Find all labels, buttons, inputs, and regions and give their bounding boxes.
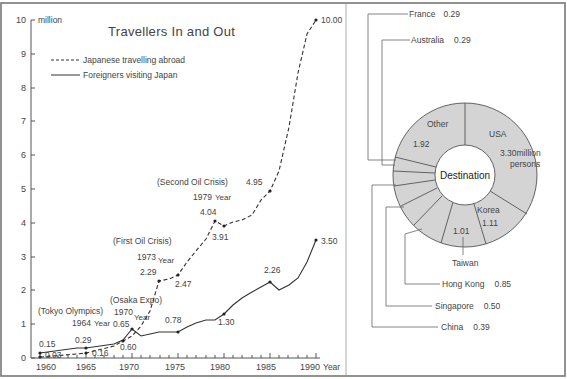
x-tick-label: 1970 [119,362,139,372]
label-name: Hong Kong [442,279,485,289]
year-number: 1970 [114,307,133,317]
value-label: 10.00 [321,15,343,25]
label-value: 0.29 [443,9,460,19]
x-tick-label: 1985 [256,362,276,372]
x-tick-label: 1990 [300,362,320,372]
value-label: 3.91 [212,232,229,242]
year-number: 1979 [193,192,212,202]
value-label: 4.04 [200,207,217,217]
slice-value-other: 1.92 [413,139,430,149]
slice-value-usa: 3.30million [500,148,541,158]
value-label: 4.95 [246,177,263,187]
pie-center-label: Destination [440,170,490,181]
label-value: 0.29 [454,35,471,45]
slice-value-korea: 1.11 [482,218,498,228]
year-word: Year [134,313,151,322]
value-label: 2.26 [264,265,281,275]
year-number: 1964 [72,318,91,328]
y-tick-label: 7 [21,116,26,126]
value-label: 0.29 [75,335,92,345]
y-tick-label: 8 [21,83,26,93]
year-number: 1973 [137,252,156,262]
x-axis-label: Year [323,362,340,372]
value-label: 3.50 [321,236,338,246]
label-hong-kong: Hong Kong0.85 [442,279,511,289]
value-label: 0.03 [45,350,62,360]
value-label: 0.16 [92,348,109,358]
y-tick-label: 6 [21,150,26,160]
y-unit-label: million [38,15,62,25]
slice-unit-usa: persons [510,159,540,169]
value-label: 0.78 [165,315,182,325]
year-word: Year [158,256,175,265]
y-tick-label: 2 [21,285,26,295]
y-tick-label: 5 [21,184,26,194]
value-label: 0.60 [120,342,137,352]
label-australia: Australia0.29 [411,35,471,45]
slice-label-usa: USA [489,129,507,139]
slice-label-other: Other [427,119,448,129]
event-label-first-oil: (First Oil Crisis) [113,236,172,246]
x-tick-label: 1980 [210,362,230,372]
x-tick-label: 1960 [36,362,56,372]
event-label-osaka: (Osaka Expo) [110,295,162,305]
year-word: Year [94,319,111,328]
label-singapore: Singapore0.50 [435,301,501,311]
label-name: France [409,9,436,19]
y-tick-label: 0 [21,353,26,363]
x-tick-label: 1975 [165,362,185,372]
value-label: 1.30 [218,317,235,327]
y-tick-label: 9 [21,49,26,59]
y-tick-label: 3 [21,252,26,262]
chart-title: Travellers In and Out [108,24,235,39]
label-france: France0.29 [409,9,460,19]
y-tick-label: 4 [21,218,26,228]
figure-canvas: 0 1 2 3 4 5 6 7 8 9 10 million 1960 1965… [0,0,567,379]
x-tick-label: 1965 [76,362,96,372]
label-name: Singapore [435,301,474,311]
label-value: 0.85 [495,279,512,289]
event-label-tokyo: (Tokyo Olympics) [38,306,103,316]
year-word: Year [215,193,232,202]
label-taiwan: Taiwan [452,258,479,268]
value-label: 2.29 [140,267,157,277]
value-label: 2.47 [175,279,192,289]
label-value: 0.39 [473,322,490,332]
label-name: Australia [411,35,444,45]
slice-label-korea: Korea [477,205,500,215]
y-tick-label: 1 [21,319,26,329]
legend-label-visiting: Foreigners visiting Japan [83,70,178,80]
label-name: China [441,322,463,332]
event-label-second-oil: (Second Oil Crisis) [157,177,228,187]
legend-label-abroad: Japanese travelling abroad [83,55,185,65]
value-label: 0.15 [39,339,56,349]
label-value: 0.50 [484,301,501,311]
value-label: 0.65 [113,319,130,329]
slice-value-taiwan: 1.01 [453,226,470,236]
y-tick-label: 10 [16,15,26,25]
